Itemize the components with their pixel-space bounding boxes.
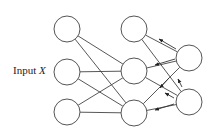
edge-M1-R1 [145, 35, 177, 52]
hidden-node-M1 [121, 16, 147, 42]
backprop-arrow-icon [165, 93, 174, 98]
edge-L2-M3 [78, 79, 123, 106]
input-node-L1 [54, 16, 80, 42]
input-node-L2 [54, 59, 80, 85]
input-label-variable: X [39, 64, 46, 76]
backprop-arrow-icon [178, 79, 182, 87]
input-x-label: Input X [13, 64, 46, 76]
input-label-prefix: Input [13, 64, 36, 76]
output-node-R1 [176, 45, 202, 71]
input-node-L3 [54, 99, 80, 125]
edge-L3-M2 [78, 78, 123, 105]
hidden-node-M2 [121, 58, 147, 84]
backprop-arrow-icon [155, 104, 174, 110]
edge-L3-M3 [80, 112, 121, 113]
neuron-nodes [54, 16, 202, 126]
edge-M3-R1 [143, 67, 180, 104]
edge-L2-M2 [80, 71, 121, 72]
output-node-R2 [176, 89, 202, 115]
edge-M2-R1 [147, 61, 177, 68]
backprop-arrow-icon [160, 78, 169, 88]
edge-L1-M2 [78, 36, 123, 64]
edge-M1-R2 [142, 39, 181, 91]
hidden-node-M3 [121, 100, 147, 126]
